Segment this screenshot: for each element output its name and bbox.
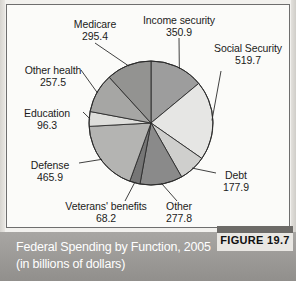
slice-label-defense: Defense 465.9 xyxy=(19,160,81,183)
slice-value-social-security: 519.7 xyxy=(206,55,290,67)
leader-line-social-security xyxy=(212,71,221,120)
slice-label-education-name: Education xyxy=(24,107,70,119)
chart-plot-area: Medicare 295.4 Income security 350.9 Soc… xyxy=(6,4,290,228)
figure-number-label: FIGURE 19.7 xyxy=(217,234,293,246)
slice-label-income-security-name: Income security xyxy=(143,14,215,26)
slice-label-other-health: Other health 257.5 xyxy=(11,65,95,88)
slice-label-debt: Debt 177.9 xyxy=(212,170,260,193)
slice-value-defense: 465.9 xyxy=(19,172,81,184)
slice-label-defense-name: Defense xyxy=(31,159,69,171)
slice-label-other-name: Other xyxy=(166,200,192,212)
slice-label-social-security-name: Social Security xyxy=(214,42,282,54)
slice-label-other-health-name: Other health xyxy=(25,64,82,76)
leader-line-other xyxy=(161,183,177,201)
slice-value-medicare: 295.4 xyxy=(60,31,130,43)
slice-value-debt: 177.9 xyxy=(212,182,260,194)
slice-value-other-health: 257.5 xyxy=(11,77,95,89)
figure-number-tag: FIGURE 19.7 xyxy=(217,226,293,251)
slice-label-veterans-benefits-name: Veterans' benefits xyxy=(65,200,146,212)
figure-container: Medicare 295.4 Income security 350.9 Soc… xyxy=(0,0,296,281)
slice-label-medicare: Medicare 295.4 xyxy=(60,19,130,42)
slice-label-income-security: Income security 350.9 xyxy=(135,15,223,38)
leader-line-veterans-benefits xyxy=(125,182,135,201)
figure-caption: Federal Spending by Function, 2005 (in b… xyxy=(16,239,212,273)
slice-label-medicare-name: Medicare xyxy=(74,18,116,30)
leader-line-medicare xyxy=(95,43,129,66)
slice-value-income-security: 350.9 xyxy=(135,27,223,39)
slice-label-debt-name: Debt xyxy=(225,169,247,181)
slice-value-education: 96.3 xyxy=(12,120,82,132)
slice-label-social-security: Social Security 519.7 xyxy=(206,43,290,66)
slice-label-other: Other 277.8 xyxy=(155,201,203,224)
slice-value-other: 277.8 xyxy=(155,213,203,225)
figure-tag-accent-bar xyxy=(217,226,293,233)
slice-label-veterans-benefits: Veterans' benefits 68.2 xyxy=(57,201,155,224)
slice-label-education: Education 96.3 xyxy=(12,108,82,131)
leader-line-defense xyxy=(79,159,102,163)
slice-value-veterans-benefits: 68.2 xyxy=(57,213,155,225)
